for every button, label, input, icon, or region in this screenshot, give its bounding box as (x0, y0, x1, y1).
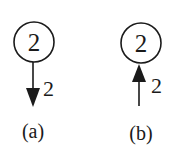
diagram-canvas: 2 2 (a) 2 2 (b) (0, 0, 181, 160)
panel-a: 2 2 (a) (14, 22, 54, 143)
caption-b: (b) (129, 122, 152, 145)
panel-b: 2 2 (b) (121, 23, 162, 145)
edge-label-b: 2 (151, 73, 162, 98)
node-label-b: 2 (135, 30, 148, 57)
edge-label-a: 2 (43, 76, 54, 101)
node-label-a: 2 (28, 29, 41, 56)
caption-a: (a) (22, 120, 44, 143)
arrow-up-icon (132, 64, 146, 82)
arrow-down-icon (26, 88, 40, 107)
